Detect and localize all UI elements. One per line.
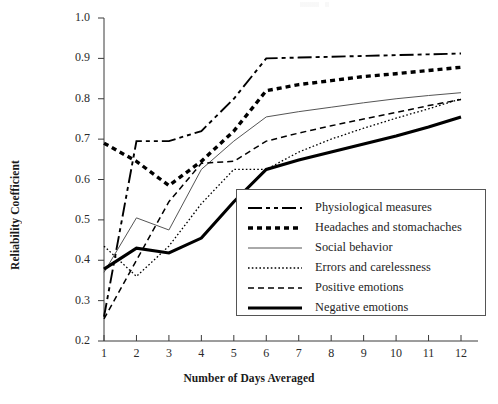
- reliability-coefficient-line-chart: Reliability Coefficient Number of Days A…: [0, 0, 498, 404]
- x-tick-label: 4: [191, 346, 211, 361]
- x-tick-label: 8: [321, 346, 341, 361]
- x-tick-label: 2: [126, 346, 146, 361]
- y-tick-label: 0.7: [56, 131, 90, 146]
- legend-item: Errors and carelessness: [237, 257, 431, 278]
- x-tick-label: 3: [159, 346, 179, 361]
- legend-item-label: Positive emotions: [315, 280, 404, 295]
- y-tick-label: 1.0: [56, 10, 90, 25]
- legend-line-swatch: [247, 221, 303, 235]
- legend: Physiological measuresHeadaches and stom…: [236, 189, 486, 316]
- x-tick-label: 5: [224, 346, 244, 361]
- x-tick-label: 11: [419, 346, 439, 361]
- legend-item-label: Physiological measures: [315, 200, 432, 215]
- legend-item: Social behavior: [237, 237, 393, 258]
- legend-line-swatch: [247, 261, 303, 275]
- y-tick-label: 0.2: [56, 333, 90, 348]
- legend-line-swatch: [247, 241, 303, 255]
- y-tick-label: 0.6: [56, 172, 90, 187]
- legend-item: Headaches and stomachaches: [237, 217, 462, 238]
- legend-item-label: Social behavior: [315, 240, 393, 255]
- y-tick-label: 0.4: [56, 252, 90, 267]
- legend-item-label: Headaches and stomachaches: [315, 220, 462, 235]
- legend-line-swatch: [247, 201, 303, 215]
- x-tick-label: 1: [94, 346, 114, 361]
- y-tick-label: 0.9: [56, 50, 90, 65]
- x-tick-label: 6: [256, 346, 276, 361]
- x-tick-label: 10: [386, 346, 406, 361]
- y-tick-label: 0.3: [56, 293, 90, 308]
- legend-item: Physiological measures: [237, 197, 432, 218]
- x-tick-label: 12: [451, 346, 471, 361]
- legend-line-swatch: [247, 301, 303, 315]
- legend-item-label: Errors and carelessness: [315, 260, 431, 275]
- series-line: [104, 67, 461, 185]
- x-tick-label: 7: [289, 346, 309, 361]
- x-tick-label: 9: [354, 346, 374, 361]
- legend-item: Positive emotions: [237, 277, 404, 298]
- y-tick-label: 0.8: [56, 91, 90, 106]
- legend-item: Negative emotions: [237, 297, 408, 318]
- legend-item-label: Negative emotions: [315, 300, 408, 315]
- y-tick-label: 0.5: [56, 212, 90, 227]
- legend-line-swatch: [247, 281, 303, 295]
